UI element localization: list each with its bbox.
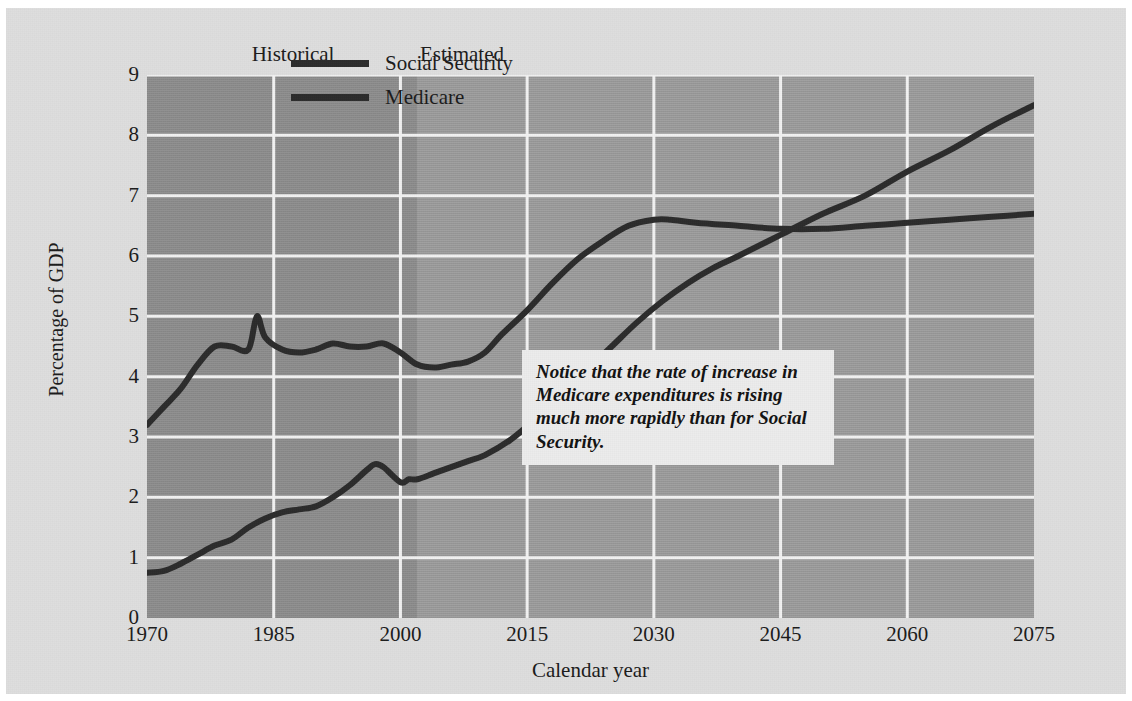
- y-tick-8: 8: [105, 124, 139, 145]
- x-axis-tick-labels: 19701985200020152030204520602075: [147, 624, 1034, 654]
- legend-label: Social Security: [385, 51, 513, 76]
- y-tick-9: 9: [105, 64, 139, 85]
- y-tick-7: 7: [105, 185, 139, 206]
- series-curves: [147, 75, 1034, 618]
- x-tick-2075: 2075: [1013, 624, 1055, 645]
- legend-item-medicare: Medicare: [291, 80, 513, 114]
- chart-legend: Social SecurityMedicare: [291, 46, 513, 114]
- legend-swatch-icon: [291, 60, 369, 67]
- y-tick-2: 2: [105, 486, 139, 507]
- x-tick-2015: 2015: [506, 624, 548, 645]
- legend-label: Medicare: [385, 85, 464, 110]
- y-tick-4: 4: [105, 366, 139, 387]
- legend-swatch-icon: [291, 94, 369, 101]
- x-tick-1985: 1985: [253, 624, 295, 645]
- x-tick-1970: 1970: [126, 624, 168, 645]
- y-tick-3: 3: [105, 426, 139, 447]
- y-tick-6: 6: [105, 245, 139, 266]
- x-tick-2000: 2000: [379, 624, 421, 645]
- legend-item-social-security: Social Security: [291, 46, 513, 80]
- y-axis-title: Percentage of GDP: [45, 220, 68, 420]
- annotation-callout: Notice that the rate of increase in Medi…: [522, 350, 834, 465]
- x-tick-2045: 2045: [760, 624, 802, 645]
- y-tick-1: 1: [105, 547, 139, 568]
- y-tick-5: 5: [105, 305, 139, 326]
- x-tick-2060: 2060: [886, 624, 928, 645]
- figure-container: Historical Estimated Percentage of GDP 0…: [0, 0, 1132, 701]
- x-axis-title: Calendar year: [147, 658, 1034, 683]
- plot-area: [147, 75, 1034, 618]
- series-line-1: [147, 105, 1034, 573]
- chart-card: Historical Estimated Percentage of GDP 0…: [6, 8, 1126, 694]
- x-tick-2030: 2030: [633, 624, 675, 645]
- y-axis-tick-labels: 0123456789: [91, 75, 139, 618]
